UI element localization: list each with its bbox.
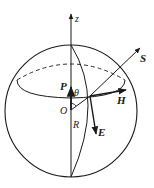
label-theta: θ — [74, 87, 79, 98]
label-o: O — [60, 105, 67, 116]
label-r: R — [72, 119, 79, 130]
label-s: S — [140, 52, 146, 64]
label-p: P — [60, 80, 67, 92]
electric-e-arrow — [90, 96, 96, 134]
label-z: z — [74, 13, 79, 24]
dipole-radiation-diagram: z S H P θ O R E — [0, 0, 154, 188]
poynting-s-arrow — [90, 48, 140, 96]
label-h: H — [116, 94, 126, 106]
label-e: E — [97, 126, 105, 138]
